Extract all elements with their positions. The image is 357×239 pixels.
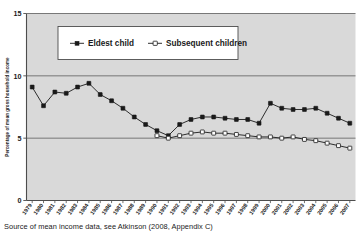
svg-text:Eldest child: Eldest child — [88, 39, 134, 48]
svg-text:1982: 1982 — [55, 202, 67, 216]
svg-text:1998: 1998 — [236, 202, 248, 216]
figure-container: 051015 197919801981198219831984198519861… — [0, 0, 357, 239]
svg-text:15: 15 — [14, 9, 22, 18]
svg-text:1981: 1981 — [44, 202, 56, 216]
y-axis-title: Percentage of mean gross household incom… — [5, 57, 10, 157]
figure-source-caption: Source of mean income data, see Atkinson… — [4, 222, 213, 231]
svg-text:2000: 2000 — [259, 202, 271, 216]
svg-text:1997: 1997 — [225, 202, 237, 216]
svg-text:10: 10 — [14, 72, 22, 81]
svg-text:1991: 1991 — [157, 202, 169, 216]
svg-text:1989: 1989 — [134, 202, 146, 216]
svg-text:2002: 2002 — [282, 202, 294, 216]
svg-text:1993: 1993 — [180, 202, 192, 216]
svg-text:2007: 2007 — [339, 202, 351, 216]
svg-text:1986: 1986 — [100, 202, 112, 216]
svg-text:1995: 1995 — [202, 202, 214, 216]
svg-text:1988: 1988 — [123, 202, 135, 216]
svg-text:1987: 1987 — [112, 202, 124, 216]
svg-text:1980: 1980 — [32, 202, 44, 216]
svg-text:1992: 1992 — [168, 202, 180, 216]
svg-text:2006: 2006 — [327, 202, 339, 216]
svg-text:2004: 2004 — [305, 202, 318, 216]
svg-text:1994: 1994 — [191, 202, 204, 216]
x-axis-ticks: 1979198019811982198319841985198619871988… — [21, 201, 351, 216]
svg-text:2001: 2001 — [271, 202, 283, 216]
line-chart: 051015 197919801981198219831984198519861… — [0, 0, 357, 239]
svg-text:1979: 1979 — [21, 202, 33, 216]
svg-text:1996: 1996 — [214, 202, 226, 216]
svg-text:1990: 1990 — [146, 202, 158, 216]
svg-text:1983: 1983 — [66, 202, 78, 216]
svg-text:1984: 1984 — [78, 202, 91, 216]
svg-text:5: 5 — [18, 134, 22, 143]
svg-text:1999: 1999 — [248, 202, 260, 216]
chart-legend[interactable]: Eldest childSubsequent children — [58, 27, 247, 60]
svg-text:0: 0 — [18, 196, 22, 205]
svg-text:Percentage of mean gross house: Percentage of mean gross household incom… — [5, 57, 10, 157]
y-axis-ticks: 051015 — [14, 9, 27, 205]
svg-text:Subsequent children: Subsequent children — [166, 39, 247, 48]
svg-text:2003: 2003 — [293, 202, 305, 216]
svg-text:1985: 1985 — [89, 202, 101, 216]
svg-text:2005: 2005 — [316, 202, 328, 216]
